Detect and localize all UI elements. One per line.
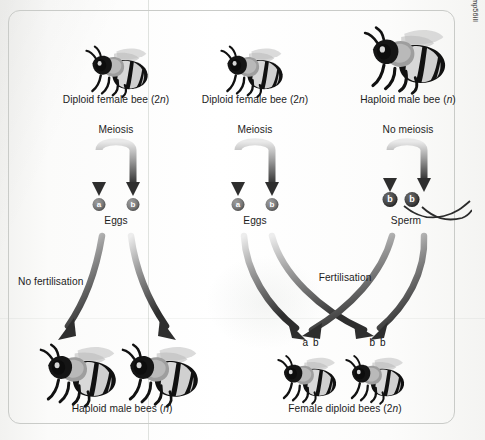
- bee-offspring-female-1: [276, 352, 344, 410]
- label-gametes-left: Eggs: [104, 215, 127, 226]
- label-offspring-right: Female diploid bees (2n): [288, 403, 401, 414]
- gamete-egg-middle-a: a: [232, 198, 245, 211]
- label-gametes-right: Sperm: [391, 215, 421, 226]
- gamete-egg-left-b: b: [127, 198, 140, 211]
- label-process-middle: Meiosis: [238, 124, 273, 135]
- label-parent-left: Diploid female bee (2n): [63, 94, 170, 105]
- bee-offspring-female-2: [344, 352, 412, 410]
- genotype-offspring-2: b b: [370, 337, 387, 348]
- gamete-sperm-2: b: [405, 192, 420, 207]
- bee-parent-right: [362, 22, 456, 102]
- gamete-sperm-1: b: [383, 192, 398, 207]
- label-offspring-left: Haploid male bees (n): [72, 403, 173, 414]
- gamete-egg-left-a: a: [93, 198, 106, 211]
- genotype-offspring-1: a b: [303, 337, 320, 348]
- label-process-right: No meiosis: [383, 124, 434, 135]
- attribution-container: Adapted from https://www.topperlearning.…: [463, 8, 479, 428]
- label-parent-right: Haploid male bee (n): [360, 94, 456, 105]
- attribution-text: Adapted from https://www.topperlearning.…: [471, 0, 480, 22]
- label-no-fertilisation: No fertilisation: [18, 276, 83, 287]
- label-process-left: Meiosis: [99, 124, 134, 135]
- label-parent-middle: Diploid female bee (2n): [202, 94, 309, 105]
- gamete-egg-middle-b: b: [266, 198, 279, 211]
- label-gametes-middle: Eggs: [243, 215, 266, 226]
- label-fertilisation: Fertilisation: [319, 272, 372, 283]
